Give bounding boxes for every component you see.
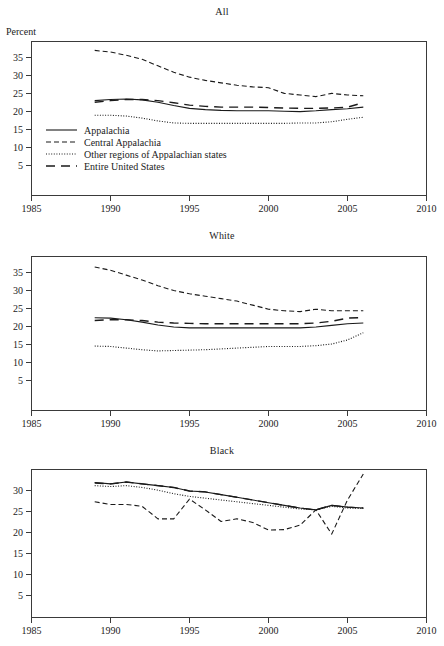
chart-panel-black: Black 30 25 20 15 10 5 bbox=[0, 440, 444, 646]
y-tick-label: 25 bbox=[13, 303, 23, 314]
y-tick-label: 25 bbox=[13, 506, 23, 517]
plot-area-black: 30 25 20 15 10 5 1985 1990 1995 2000 2 bbox=[0, 440, 444, 646]
y-tick-label: 5 bbox=[18, 375, 23, 386]
x-tick-label: 1995 bbox=[180, 203, 200, 214]
legend-all: Appalachia Central Appalachia Other regi… bbox=[46, 125, 227, 172]
x-tick-labels-all: 1985 1990 1995 2000 2005 2010 bbox=[22, 203, 437, 214]
series-line bbox=[95, 486, 364, 510]
legend-label: Appalachia bbox=[84, 125, 130, 136]
x-tick-label: 2000 bbox=[259, 203, 279, 214]
x-tick-label: 1985 bbox=[22, 418, 42, 429]
x-ticks-black bbox=[32, 618, 427, 624]
legend-label: Central Appalachia bbox=[84, 137, 161, 148]
series-line bbox=[95, 99, 364, 108]
y-tick-label: 30 bbox=[13, 485, 23, 496]
x-tick-label: 1995 bbox=[180, 418, 200, 429]
x-tick-label: 1995 bbox=[180, 625, 200, 636]
series-line bbox=[95, 115, 364, 123]
x-tick-label: 1990 bbox=[101, 625, 121, 636]
plot-frame-black bbox=[32, 470, 427, 618]
series-layer-white bbox=[95, 267, 364, 351]
x-tick-label: 2005 bbox=[338, 625, 358, 636]
series-layer-black bbox=[95, 474, 364, 534]
y-tick-label: 20 bbox=[13, 527, 23, 538]
y-tick-label: 5 bbox=[18, 590, 23, 601]
x-tick-label: 1985 bbox=[22, 625, 42, 636]
x-ticks-all bbox=[32, 196, 427, 202]
y-ticks-white bbox=[26, 273, 32, 381]
x-tick-label: 2000 bbox=[259, 625, 279, 636]
x-tick-label: 1990 bbox=[101, 418, 121, 429]
y-tick-label: 5 bbox=[18, 160, 23, 171]
x-tick-label: 2005 bbox=[338, 203, 358, 214]
chart-panel-all: All Percent 35 30 25 20 15 10 bbox=[0, 0, 444, 225]
x-tick-label: 1990 bbox=[101, 203, 121, 214]
series-line bbox=[95, 267, 364, 312]
legend-label: Entire United States bbox=[84, 161, 165, 172]
chart-panel-white: White 35 30 25 20 15 10 5 bbox=[0, 225, 444, 440]
y-tick-label: 30 bbox=[13, 70, 23, 81]
plot-area-white: 35 30 25 20 15 10 5 1985 1990 1995 200 bbox=[0, 225, 444, 440]
y-tick-label: 20 bbox=[13, 321, 23, 332]
y-ticks-all bbox=[26, 58, 32, 166]
y-tick-label: 15 bbox=[13, 124, 23, 135]
series-layer-all bbox=[95, 50, 364, 123]
y-tick-label: 15 bbox=[13, 548, 23, 559]
x-tick-labels-white: 1985 1990 1995 2000 2005 2010 bbox=[22, 418, 437, 429]
y-tick-labels-black: 30 25 20 15 10 5 bbox=[13, 485, 23, 601]
y-tick-label: 30 bbox=[13, 285, 23, 296]
plot-frame-white bbox=[32, 257, 427, 411]
y-tick-label: 10 bbox=[13, 142, 23, 153]
y-tick-label: 35 bbox=[13, 267, 23, 278]
x-tick-label: 2000 bbox=[259, 418, 279, 429]
legend-label: Other regions of Appalachian states bbox=[84, 149, 227, 160]
plot-frame-all bbox=[32, 42, 427, 196]
y-tick-label: 25 bbox=[13, 88, 23, 99]
x-tick-label: 2010 bbox=[417, 625, 437, 636]
y-tick-labels-all: 35 30 25 20 15 10 5 bbox=[13, 52, 23, 171]
y-tick-label: 10 bbox=[13, 569, 23, 580]
y-tick-labels-white: 35 30 25 20 15 10 5 bbox=[13, 267, 23, 386]
series-line bbox=[95, 333, 364, 351]
x-tick-label: 2010 bbox=[417, 203, 437, 214]
x-tick-label: 1985 bbox=[22, 203, 42, 214]
y-tick-label: 10 bbox=[13, 357, 23, 368]
x-tick-labels-black: 1985 1990 1995 2000 2005 2010 bbox=[22, 625, 437, 636]
series-line bbox=[95, 99, 364, 112]
y-tick-label: 35 bbox=[13, 52, 23, 63]
y-tick-label: 20 bbox=[13, 106, 23, 117]
figure-poverty-rate-trends: All Percent 35 30 25 20 15 10 bbox=[0, 0, 444, 646]
x-tick-label: 2005 bbox=[338, 418, 358, 429]
x-tick-label: 2010 bbox=[417, 418, 437, 429]
plot-area-all: 35 30 25 20 15 10 5 1985 1990 1995 200 bbox=[0, 0, 444, 225]
series-line bbox=[95, 50, 364, 96]
y-tick-label: 15 bbox=[13, 339, 23, 350]
y-ticks-black bbox=[26, 491, 32, 596]
x-ticks-white bbox=[32, 411, 427, 417]
